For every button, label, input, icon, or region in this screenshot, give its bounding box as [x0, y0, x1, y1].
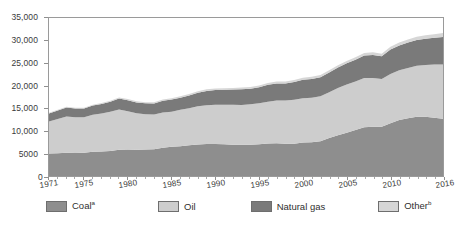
- x-tick-label: 1980: [118, 178, 138, 190]
- legend-item-natural-gas[interactable]: Natural gas: [251, 201, 326, 212]
- x-minor-tick: [435, 177, 436, 179]
- x-minor-tick: [198, 177, 199, 179]
- legend-item-oil[interactable]: Oil: [158, 201, 196, 212]
- legend-label: Coala: [72, 200, 95, 211]
- legend-item-other[interactable]: Otherb: [378, 200, 431, 211]
- x-minor-tick: [330, 177, 331, 179]
- legend-footnote-marker: a: [92, 199, 95, 206]
- legend-swatch-icon: [251, 201, 272, 212]
- legend-label: Otherb: [404, 200, 431, 211]
- x-tick-label: 2005: [338, 178, 358, 190]
- x-minor-tick: [382, 177, 383, 179]
- legend-swatch-icon: [46, 201, 67, 212]
- x-tick-label: 1975: [74, 178, 94, 190]
- legend-swatch-icon: [378, 201, 399, 212]
- x-minor-tick: [250, 177, 251, 179]
- x-minor-tick: [365, 177, 366, 179]
- x-tick-label: 1990: [206, 178, 226, 190]
- x-tick-label: 1985: [162, 178, 182, 190]
- x-tick-label: 1995: [250, 178, 270, 190]
- x-minor-tick: [409, 177, 410, 179]
- x-minor-tick: [418, 177, 419, 179]
- x-minor-tick: [145, 177, 146, 179]
- x-minor-tick: [66, 177, 67, 179]
- x-tick-label: 2000: [294, 178, 314, 190]
- legend-footnote-marker: b: [428, 199, 431, 206]
- x-minor-tick: [374, 177, 375, 179]
- x-minor-tick: [286, 177, 287, 179]
- x-minor-tick: [206, 177, 207, 179]
- chart-figure: 0500010,00015,00020,00025,00030,00035,00…: [0, 0, 465, 227]
- x-minor-tick: [233, 177, 234, 179]
- x-minor-tick: [162, 177, 163, 179]
- x-axis: 1971197519801985199019952000200520102016: [0, 0, 465, 227]
- x-minor-tick: [74, 177, 75, 179]
- x-minor-tick: [189, 177, 190, 179]
- chart-legend: CoalaOilNatural gasOtherb: [46, 196, 446, 216]
- x-minor-tick: [277, 177, 278, 179]
- x-minor-tick: [338, 177, 339, 179]
- legend-label: Natural gas: [277, 201, 326, 212]
- x-minor-tick: [426, 177, 427, 179]
- y-axis-zero-label: 0: [38, 172, 43, 182]
- x-minor-tick: [101, 177, 102, 179]
- legend-label: Oil: [184, 201, 196, 212]
- x-minor-tick: [154, 177, 155, 179]
- x-minor-tick: [242, 177, 243, 179]
- x-minor-tick: [321, 177, 322, 179]
- x-tick-label: 2010: [382, 178, 402, 190]
- legend-item-coal[interactable]: Coala: [46, 200, 95, 211]
- x-minor-tick: [110, 177, 111, 179]
- legend-swatch-icon: [158, 201, 179, 212]
- x-minor-tick: [294, 177, 295, 179]
- x-minor-tick: [118, 177, 119, 179]
- x-tick-label: 2016: [435, 178, 455, 190]
